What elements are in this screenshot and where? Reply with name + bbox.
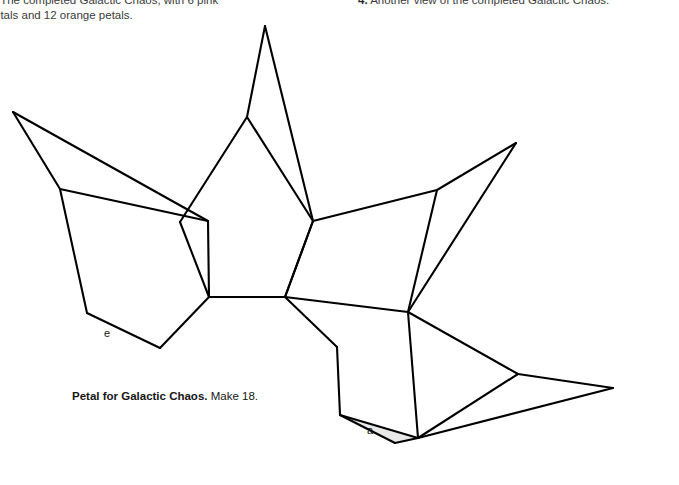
figure-page: . The completed Galactic Chaos, with 6 p… — [0, 0, 679, 485]
right-petal-top-edge — [313, 190, 437, 221]
center-petal-fold-right — [247, 117, 313, 221]
right-petal-fold — [408, 190, 437, 312]
center-petal-left-edge — [180, 222, 209, 297]
left-petal-bottom-left — [87, 313, 160, 348]
left-petal-right-edge — [208, 221, 209, 297]
lower-right-petal-fold — [418, 374, 518, 438]
right-petal-spike-upper — [437, 143, 516, 190]
right-petal-left-edge — [285, 221, 313, 297]
left-petal-left-edge — [60, 189, 87, 313]
left-petal-spike-upper — [13, 112, 60, 189]
left-petal-bottom-right — [160, 297, 209, 348]
petal-caption-title: Petal for Galactic Chaos. — [72, 390, 208, 402]
center-petal-spike-right — [265, 26, 313, 221]
lower-center-petal-left-edge — [337, 347, 340, 415]
right-petal-bottom-edge — [285, 297, 408, 312]
shaded-faces-group — [337, 347, 418, 443]
petal-a-shaded-face — [337, 347, 418, 443]
left-petal-inner-fold — [60, 189, 208, 221]
right-petal-spike-lower — [408, 143, 516, 312]
vertex-label-e: e — [104, 327, 110, 339]
vertex-label-a: a — [367, 424, 373, 436]
lower-right-petal-upper — [408, 312, 518, 374]
lower-right-petal-tip-lower — [418, 388, 613, 438]
petal-caption-quantity: Make 18. — [208, 390, 259, 402]
center-petal-spike-left — [247, 26, 265, 117]
fold-lines-group — [13, 26, 613, 443]
galactic-chaos-diagram — [0, 0, 679, 485]
petal-caption: Petal for Galactic Chaos. Make 18. — [72, 390, 258, 402]
lower-center-petal-upper-left — [285, 297, 337, 347]
lower-right-petal-tip-upper — [518, 374, 613, 388]
lower-center-petal-right-edge — [408, 312, 418, 438]
left-petal-spike-lower — [13, 112, 208, 221]
center-petal-fold-left — [180, 117, 247, 222]
